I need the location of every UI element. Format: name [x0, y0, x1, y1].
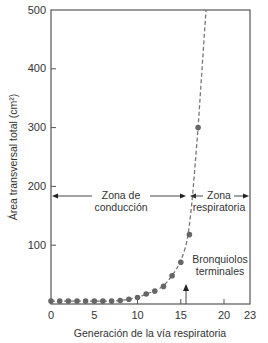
arrow-up-icon	[183, 284, 189, 291]
data-points	[48, 125, 201, 304]
data-point	[117, 298, 123, 304]
data-point	[126, 297, 132, 303]
data-point	[135, 295, 141, 301]
zone-respiratory-label-1: Zona	[207, 189, 231, 201]
arrow-right-icon	[243, 194, 249, 199]
data-point	[109, 298, 115, 304]
area-curve	[51, 10, 206, 301]
y-tick-500: 500	[28, 4, 46, 16]
data-point	[92, 298, 98, 304]
chart: 100 200 300 400 500 0 5 10 15 20 23 Gene…	[0, 0, 268, 343]
data-point	[57, 298, 63, 304]
data-point	[66, 298, 72, 304]
zone-respiratory-label-2: respiratoria	[193, 201, 246, 213]
x-tick-5: 5	[91, 309, 97, 321]
x-tick-23: 23	[244, 309, 256, 321]
data-point	[161, 284, 167, 290]
y-axis-label: Área transversal total (cm²)	[7, 94, 19, 221]
x-axis-label: Generación de la vía respiratoria	[74, 327, 226, 339]
y-tick-100: 100	[28, 239, 46, 251]
x-tick-0: 0	[48, 309, 54, 321]
y-tick-200: 200	[28, 180, 46, 192]
y-tick-300: 300	[28, 121, 46, 133]
data-point	[178, 260, 184, 266]
zone-conduction-label-1: Zona de	[102, 189, 141, 201]
bronchioles-label-1: Bronquiolos	[192, 253, 247, 265]
zone-respiratory-arrow: Zona respiratoria	[190, 189, 249, 213]
arrow-right-icon	[180, 194, 186, 199]
x-tick-20: 20	[218, 309, 230, 321]
chart-canvas: 100 200 300 400 500 0 5 10 15 20 23 Gene…	[0, 0, 268, 343]
arrow-left-icon	[52, 194, 58, 199]
y-axis-ticks: 100 200 300 400 500	[28, 4, 56, 251]
bronchioles-annotation: Bronquiolos terminales	[183, 253, 248, 304]
zone-conduction-label-2: conducción	[94, 201, 147, 213]
data-point	[74, 298, 80, 304]
x-tick-15: 15	[175, 309, 187, 321]
data-point	[143, 291, 149, 297]
data-point	[48, 298, 54, 304]
x-tick-10: 10	[131, 309, 143, 321]
zone-conduction-arrow: Zona de conducción	[52, 189, 186, 213]
data-point	[169, 273, 175, 279]
y-tick-400: 400	[28, 62, 46, 74]
data-point	[100, 298, 106, 304]
data-point	[83, 298, 89, 304]
bronchioles-label-2: terminales	[196, 265, 244, 277]
data-point	[187, 232, 193, 238]
data-point	[152, 288, 158, 294]
data-point	[195, 125, 201, 131]
